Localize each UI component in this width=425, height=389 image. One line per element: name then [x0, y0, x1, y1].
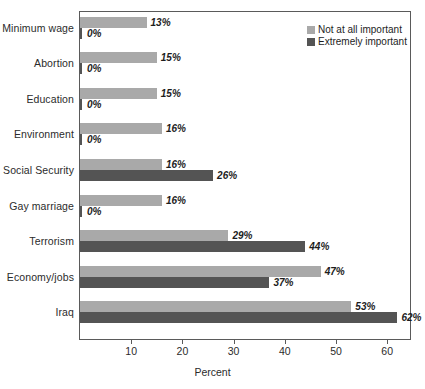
- bar-not-at-all-important: [80, 195, 162, 206]
- bar-value-label: 16%: [166, 159, 186, 170]
- bar-not-at-all-important: [80, 159, 162, 170]
- bar-value-label: 29%: [232, 230, 252, 241]
- bar-not-at-all-important: [80, 17, 147, 28]
- legend-item-not-at-all-important: Not at all important: [307, 24, 407, 35]
- chart-legend: Not at all important Extremely important: [307, 24, 407, 48]
- x-tick-mark: [234, 340, 235, 344]
- bar-chart: Minimum wageAbortionEducationEnvironment…: [0, 0, 425, 389]
- category-label: Environment: [0, 128, 74, 140]
- x-tick-mark: [131, 340, 132, 344]
- bar-extremely-important: [80, 63, 82, 74]
- bar-value-label: 0%: [87, 99, 101, 110]
- category-label: Terrorism: [0, 235, 74, 247]
- bar-value-label: 37%: [273, 277, 293, 288]
- category-label: Social Security: [0, 164, 74, 176]
- legend-swatch-icon: [307, 26, 315, 34]
- bar-value-label: 15%: [161, 52, 181, 63]
- bar-value-label: 44%: [309, 241, 329, 252]
- bar-not-at-all-important: [80, 52, 157, 63]
- category-label: Abortion: [0, 57, 74, 69]
- x-tick-mark: [285, 340, 286, 344]
- category-label: Gay marriage: [0, 200, 74, 212]
- bar-value-label: 0%: [87, 206, 101, 217]
- bar-extremely-important: [80, 134, 82, 145]
- x-tick-mark: [336, 340, 337, 344]
- x-tick-label: 20: [177, 345, 189, 357]
- x-tick-label: 60: [381, 345, 393, 357]
- bar-extremely-important: [80, 206, 82, 217]
- bar-value-label: 16%: [166, 195, 186, 206]
- bar-value-label: 0%: [87, 28, 101, 39]
- bar-extremely-important: [80, 28, 82, 39]
- bar-not-at-all-important: [80, 266, 321, 277]
- legend-label: Extremely important: [318, 36, 407, 47]
- bar-value-label: 26%: [217, 170, 237, 181]
- legend-item-extremely-important: Extremely important: [307, 36, 407, 47]
- bar-not-at-all-important: [80, 301, 351, 312]
- bar-value-label: 15%: [161, 88, 181, 99]
- x-tick-mark: [387, 340, 388, 344]
- x-tick-label: 50: [330, 345, 342, 357]
- bar-value-label: 62%: [401, 312, 421, 323]
- bar-value-label: 0%: [87, 63, 101, 74]
- x-tick-mark: [182, 340, 183, 344]
- x-tick-label: 10: [125, 345, 137, 357]
- bar-value-label: 47%: [325, 266, 345, 277]
- bar-not-at-all-important: [80, 88, 157, 99]
- bar-value-label: 0%: [87, 134, 101, 145]
- bar-value-label: 16%: [166, 123, 186, 134]
- bar-not-at-all-important: [80, 123, 162, 134]
- legend-swatch-icon: [307, 38, 315, 46]
- category-label: Minimum wage: [0, 22, 74, 34]
- x-axis-title: Percent: [0, 366, 425, 378]
- bar-extremely-important: [80, 277, 269, 288]
- bar-not-at-all-important: [80, 230, 228, 241]
- category-label: Economy/jobs: [0, 271, 74, 283]
- legend-label: Not at all important: [318, 24, 402, 35]
- x-tick-label: 30: [228, 345, 240, 357]
- bar-value-label: 13%: [151, 17, 171, 28]
- bar-value-label: 53%: [355, 301, 375, 312]
- x-tick-label: 40: [279, 345, 291, 357]
- bar-extremely-important: [80, 312, 397, 323]
- category-label: Iraq: [0, 306, 74, 318]
- bar-extremely-important: [80, 241, 305, 252]
- bar-extremely-important: [80, 170, 213, 181]
- category-label: Education: [0, 93, 74, 105]
- bar-extremely-important: [80, 99, 82, 110]
